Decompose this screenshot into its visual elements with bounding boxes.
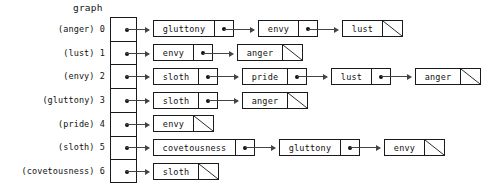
pointer-arrow xyxy=(308,29,339,30)
list-node-key: envy xyxy=(385,140,424,155)
nil-slash-icon xyxy=(288,93,307,108)
pointer-arrow xyxy=(126,53,149,54)
list-node[interactable]: envy xyxy=(153,115,214,132)
list-node-key: gluttony xyxy=(154,21,214,36)
vertex-slot[interactable] xyxy=(111,137,136,161)
list-node-key: covetousness xyxy=(154,140,235,155)
list-node-key: envy xyxy=(259,21,298,36)
vertex-label: (lust) 1 xyxy=(0,49,105,58)
list-node-key: gluttony xyxy=(280,140,340,155)
vertex-label: (anger) 0 xyxy=(0,25,105,34)
page-title: graph xyxy=(73,2,103,13)
nil-slash-icon xyxy=(461,69,480,84)
list-node[interactable]: envy xyxy=(384,139,445,156)
vertex-label: (gluttony) 3 xyxy=(0,96,105,105)
list-node[interactable]: sloth xyxy=(153,163,219,180)
nil-pointer-cell xyxy=(460,69,480,84)
pointer-arrow xyxy=(297,76,328,77)
list-node-key: envy xyxy=(154,116,193,131)
list-node[interactable]: gluttony xyxy=(279,139,360,156)
pointer-arrow xyxy=(126,100,149,101)
pointer-arrow xyxy=(126,29,149,30)
list-node-key: anger xyxy=(243,93,287,108)
pointer-arrow xyxy=(208,100,239,101)
pointer-arrow xyxy=(126,171,149,172)
pointer-arrow xyxy=(126,124,149,125)
pointer-arrow xyxy=(224,29,255,30)
list-node[interactable]: covetousness xyxy=(153,139,255,156)
nil-slash-icon xyxy=(194,116,213,131)
list-node-key: lust xyxy=(343,21,382,36)
list-node[interactable]: anger xyxy=(415,68,481,85)
nil-slash-icon xyxy=(425,140,444,155)
vertex-label: (pride) 4 xyxy=(0,120,105,129)
pointer-arrow xyxy=(381,76,412,77)
vertex-label: (envy) 2 xyxy=(0,72,105,81)
list-node-key: anger xyxy=(238,45,282,60)
vertex-slot[interactable] xyxy=(111,160,136,184)
list-node-key: envy xyxy=(154,45,193,60)
pointer-arrow xyxy=(350,147,381,148)
nil-pointer-cell xyxy=(287,93,307,108)
pointer-arrow xyxy=(245,147,276,148)
nil-slash-icon xyxy=(383,21,402,36)
pointer-arrow xyxy=(126,147,149,148)
nil-slash-icon xyxy=(283,45,302,60)
nil-pointer-cell xyxy=(424,140,444,155)
pointer-arrow xyxy=(203,53,234,54)
vertex-label: (sloth) 5 xyxy=(0,143,105,152)
list-node[interactable]: lust xyxy=(342,20,403,37)
nil-slash-icon xyxy=(199,164,218,179)
nil-pointer-cell xyxy=(382,21,402,36)
list-node[interactable]: anger xyxy=(242,92,308,109)
list-node[interactable]: gluttony xyxy=(153,20,234,37)
list-node[interactable]: anger xyxy=(237,44,303,61)
list-node-key: anger xyxy=(416,69,460,84)
list-node-key: sloth xyxy=(154,93,198,108)
list-node-key: sloth xyxy=(154,69,198,84)
vertex-slot[interactable] xyxy=(111,65,136,89)
pointer-arrow xyxy=(126,76,149,77)
nil-pointer-cell xyxy=(193,116,213,131)
list-node-key: lust xyxy=(332,69,371,84)
vertex-label: (covetousness) 6 xyxy=(0,167,105,176)
list-node-key: pride xyxy=(243,69,287,84)
list-node-key: sloth xyxy=(154,164,198,179)
pointer-arrow xyxy=(208,76,239,77)
nil-pointer-cell xyxy=(282,45,302,60)
adjacency-list-diagram: graph (anger) 0(lust) 1(envy) 2(gluttony… xyxy=(0,0,499,189)
nil-pointer-cell xyxy=(198,164,218,179)
